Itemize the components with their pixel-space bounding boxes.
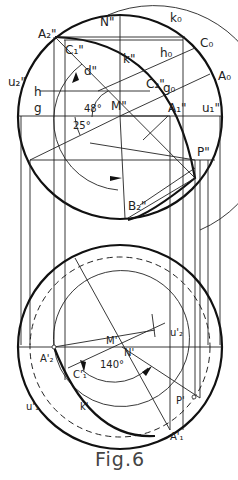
label-k: k"	[123, 52, 135, 66]
label-P: P"	[197, 145, 210, 159]
point-A2	[52, 345, 56, 349]
geometry-figure: N" k₀ A₂" C₁" C₀ h₀ k" d" u₂" C₂" g₀ A₀ …	[0, 0, 238, 480]
bottom-view: M' N' u'₂ A'₂ 140° C'₁ u'₁ k' P' A'₁	[18, 245, 222, 449]
label-angle-25: 25°	[73, 120, 91, 131]
label-angle-48: 48°	[84, 103, 102, 114]
line-A1-perp	[143, 116, 168, 140]
label-h0: h₀	[160, 46, 173, 60]
label-C0: C₀	[200, 36, 213, 50]
label-N-prime: N'	[124, 347, 134, 358]
label-u1-prime: u'₁	[26, 401, 39, 412]
label-C1-prime: C'₁	[73, 369, 87, 380]
arrow-head-up	[72, 72, 79, 83]
arrow-head-right	[110, 176, 122, 181]
line-A2-mark	[54, 330, 155, 347]
label-A1: A₁"	[168, 101, 187, 115]
tick-mark	[152, 314, 155, 337]
label-angle-140: 140°	[100, 359, 124, 370]
label-g: g	[34, 101, 42, 115]
label-P-prime: P'	[176, 395, 185, 406]
label-k0: k₀	[170, 11, 182, 25]
label-M: M"	[111, 99, 127, 113]
figure-caption: Fig.6	[95, 448, 145, 470]
label-B2: B₂"	[128, 199, 147, 213]
label-A2-prime: A'₂	[40, 353, 54, 364]
point-P	[192, 395, 196, 399]
label-k-prime: k'	[80, 401, 89, 412]
label-N: N"	[100, 15, 115, 29]
line-perp	[90, 143, 195, 160]
arrow-head-right-bottom	[142, 366, 152, 376]
label-A1-prime: A'₁	[170, 431, 184, 442]
label-u2-prime: u'₂	[170, 327, 183, 338]
angle-140-arc	[82, 368, 148, 382]
label-M-prime: M'	[106, 335, 117, 346]
label-u2: u₂"	[8, 75, 26, 89]
label-u1: u₁"	[202, 101, 220, 115]
label-A0: A₀	[218, 69, 231, 83]
line-M-B2	[120, 116, 125, 218]
label-d: d"	[84, 64, 97, 78]
label-C2: C₂"	[146, 77, 165, 91]
label-C1: C₁"	[65, 43, 84, 57]
line-diagonal	[75, 258, 170, 430]
label-A2: A₂"	[38, 27, 57, 41]
label-g0: g₀	[163, 81, 176, 95]
label-h: h	[34, 85, 42, 99]
